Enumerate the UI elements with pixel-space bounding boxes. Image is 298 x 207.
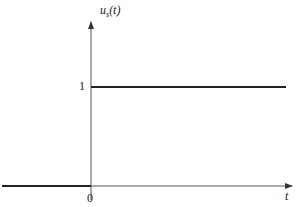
y-tick-1: 1: [79, 79, 85, 94]
y-axis-label: us(t): [100, 3, 120, 19]
y-label-arg: (t): [109, 3, 120, 17]
step-function-plot: [0, 0, 298, 207]
x-tick-0: 0: [87, 191, 93, 206]
x-axis-label: t: [285, 189, 288, 204]
